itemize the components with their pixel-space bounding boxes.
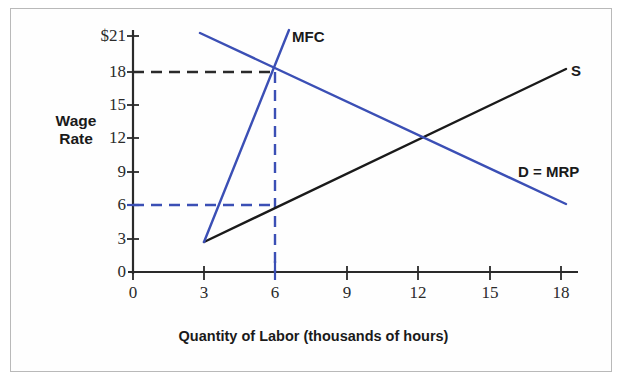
mfc-curve-label: MFC xyxy=(292,28,325,45)
y-tick-label-3: 3 xyxy=(86,229,126,249)
x-tick-label-9: 9 xyxy=(343,283,352,303)
y-tick-label-18: 18 xyxy=(86,62,126,82)
y-tick-label-9: 9 xyxy=(86,162,126,182)
supply-curve xyxy=(204,69,566,242)
demand-mrp-curve xyxy=(200,33,566,204)
y-tick-label-21: $21 xyxy=(86,26,126,46)
y-tick-label-6: 6 xyxy=(86,195,126,215)
x-tick-label-15: 15 xyxy=(482,283,499,303)
supply-curve-label: S xyxy=(571,62,581,79)
chart-figure: $21 18 15 12 9 6 3 0 0 3 6 9 12 15 18 MF… xyxy=(0,0,627,383)
x-axis-title: Quantity of Labor (thousands of hours) xyxy=(0,328,627,344)
y-tick-label-0: 0 xyxy=(86,262,126,282)
y-axis-title-line-2: Rate xyxy=(36,130,116,148)
y-axis-title-line-1: Wage xyxy=(36,112,116,130)
x-tick-label-6: 6 xyxy=(271,283,280,303)
chart-plot-area xyxy=(0,0,627,383)
x-tick-label-18: 18 xyxy=(553,283,570,303)
x-tick-label-12: 12 xyxy=(410,283,427,303)
demand-mrp-curve-label: D = MRP xyxy=(518,163,579,180)
x-tick-label-3: 3 xyxy=(200,283,209,303)
mfc-curve xyxy=(204,30,289,242)
x-tick-label-0: 0 xyxy=(129,283,138,303)
y-axis-title: Wage Rate xyxy=(36,112,116,149)
